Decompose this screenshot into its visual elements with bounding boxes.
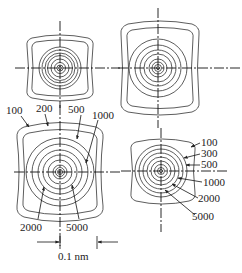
label-500: 500 [201,158,218,170]
leader-300 [184,154,200,158]
label-5000: 5000 [192,210,215,222]
leader-500 [77,115,81,139]
label-1000: 1000 [203,176,226,188]
panel-top-left [15,21,120,108]
label-100: 100 [6,104,23,116]
panel-bottom-right-labels: 100 300 500 1000 2000 5000 [192,136,226,222]
leader-2000 [38,187,44,219]
scale-label: 0.1 nm [58,250,89,262]
label-500: 500 [68,103,85,115]
leader-1000 [178,178,202,182]
label-200: 200 [36,102,53,114]
panel-top-right [118,8,240,128]
label-2000: 2000 [20,221,43,233]
label-1000: 1000 [92,109,115,121]
label-2000: 2000 [198,192,221,204]
scale-bar [37,236,118,249]
leader-100 [21,116,29,127]
label-5000: 5000 [66,221,89,233]
leader-200 [45,114,48,126]
contour-figure: 100 200 500 1000 2000 5000 0.1 nm 100 30… [0,0,242,273]
